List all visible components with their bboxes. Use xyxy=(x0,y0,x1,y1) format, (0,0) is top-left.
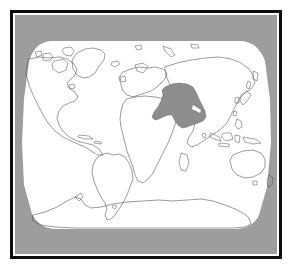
screenshot-root: A small world map in a black frame. The … xyxy=(0,0,296,273)
frame-mat xyxy=(13,13,279,256)
map-background-field xyxy=(15,15,277,254)
world-map-svg xyxy=(15,15,277,254)
picture-frame xyxy=(10,10,282,259)
